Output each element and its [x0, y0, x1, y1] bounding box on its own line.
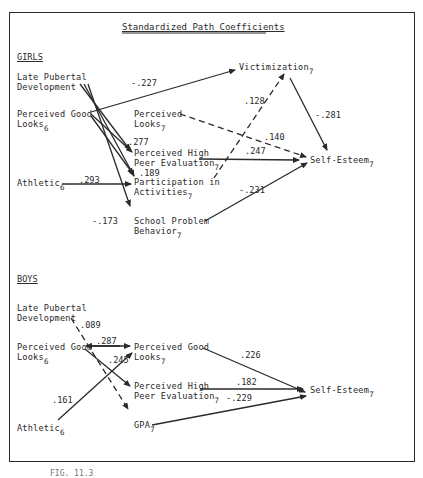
time-subscript: 7 — [369, 390, 374, 399]
coef-girls-pubertal-schoolproblem: -.173 — [92, 216, 118, 226]
node-line: Perceived High — [134, 381, 219, 391]
boys-node-perceived-good-looks-7: Perceived Good Looks7 — [134, 342, 209, 367]
coef-girls-victimization-selfesteem: -.281 — [315, 110, 341, 120]
node-line: Athletic — [17, 178, 60, 188]
girls-node-athletic-6: Athletic6 — [17, 178, 65, 193]
coef-boys-gpa-selfesteem: -.229 — [226, 393, 252, 403]
time-subscript: 6 — [60, 428, 65, 437]
time-subscript: 6 — [60, 183, 65, 192]
node-line: GPA — [134, 420, 150, 430]
node-line: Perceived Good — [17, 342, 92, 352]
coef-girls-participation-victimization: .128 — [244, 96, 265, 106]
time-subscript: 7 — [215, 396, 220, 405]
figure-caption: FIG. 11.3 — [50, 469, 93, 478]
girls-node-perceived-looks-7: Perceived Looks7 — [134, 109, 182, 134]
node-line: Self-Esteem — [310, 155, 369, 165]
girls-node-victimization-7: Victimization7 — [239, 62, 314, 77]
node-line: Development — [17, 82, 87, 92]
time-subscript: 6 — [44, 357, 49, 366]
node-line: Development — [17, 313, 87, 323]
coef-boys-peereval-selfesteem: .182 — [236, 377, 257, 387]
boys-section-label: BOYS — [17, 274, 38, 284]
node-line: Peer Evaluation — [134, 158, 215, 168]
coef-girls-looks6-peereval: .277 — [128, 137, 149, 147]
girls-section-label: GIRLS — [17, 52, 43, 62]
coef-girls-peereval-selfesteem: .247 — [245, 146, 266, 156]
coef-boys-looks6-looks7: .287 — [96, 336, 117, 346]
coef-girls-athletic-participation: .293 — [79, 175, 100, 185]
girls-node-late-pubertal-development: Late Pubertal Development — [17, 72, 87, 92]
node-line: Perceived Good — [17, 109, 92, 119]
node-line: Looks — [134, 119, 161, 129]
node-line: Looks — [134, 352, 161, 362]
time-subscript: 7 — [150, 425, 155, 434]
time-subscript: 6 — [44, 124, 49, 133]
diagram-title: Standardized Path Coefficients — [122, 22, 285, 32]
coef-boys-looks7-selfesteem: .226 — [240, 350, 261, 360]
node-line: Activities — [134, 187, 188, 197]
node-line: Looks — [17, 352, 44, 362]
node-line: Athletic — [17, 423, 60, 433]
time-subscript: 7 — [215, 163, 220, 172]
girls-node-school-problem-behavior-7: School Problem Behavior7 — [134, 216, 209, 241]
time-subscript: 7 — [188, 192, 193, 201]
time-subscript: 7 — [177, 231, 182, 240]
boys-node-athletic-6: Athletic6 — [17, 423, 65, 438]
node-line: Perceived High — [134, 148, 219, 158]
node-line: Self-Esteem — [310, 385, 369, 395]
coef-boys-looks6-peereval: .245 — [108, 355, 129, 365]
boys-node-gpa-7: GPA7 — [134, 420, 155, 435]
coef-girls-schoolproblem-selfesteem: -.231 — [239, 185, 265, 195]
time-subscript: 7 — [369, 160, 374, 169]
coef-girls-looks6-victimization: -.227 — [131, 78, 157, 88]
girls-node-perceived-good-looks-6: Perceived Good Looks6 — [17, 109, 92, 134]
node-line: Peer Evaluation — [134, 391, 215, 401]
boys-node-self-esteem-7: Self-Esteem7 — [310, 385, 374, 400]
node-line: Perceived Good — [134, 342, 209, 352]
node-line: Late Pubertal — [17, 72, 87, 82]
node-line: School Problem — [134, 216, 209, 226]
time-subscript: 7 — [161, 124, 166, 133]
time-subscript: 7 — [161, 357, 166, 366]
node-line: Behavior — [134, 226, 177, 236]
coef-girls-looks6-participation: .189 — [139, 168, 160, 178]
boys-node-late-pubertal-development: Late Pubertal Development — [17, 303, 87, 323]
node-line: Participation in — [134, 177, 220, 187]
node-line: Perceived — [134, 109, 182, 119]
node-line: Looks — [17, 119, 44, 129]
coef-boys-pubertal-gpa: .089 — [80, 320, 101, 330]
boys-node-perceived-good-looks-6: Perceived Good Looks6 — [17, 342, 92, 367]
coef-girls-perceivedlooks7-selfesteem: .140 — [264, 132, 285, 142]
girls-node-self-esteem-7: Self-Esteem7 — [310, 155, 374, 170]
boys-node-perceived-high-peer-evaluation-7: Perceived High Peer Evaluation7 — [134, 381, 219, 406]
time-subscript: 7 — [309, 67, 314, 76]
girls-node-participation-in-activities-7: Participation in Activities7 — [134, 177, 220, 202]
node-line: Late Pubertal — [17, 303, 87, 313]
node-line: Victimization — [239, 62, 309, 72]
coef-boys-athletic-looks7: .161 — [52, 395, 73, 405]
